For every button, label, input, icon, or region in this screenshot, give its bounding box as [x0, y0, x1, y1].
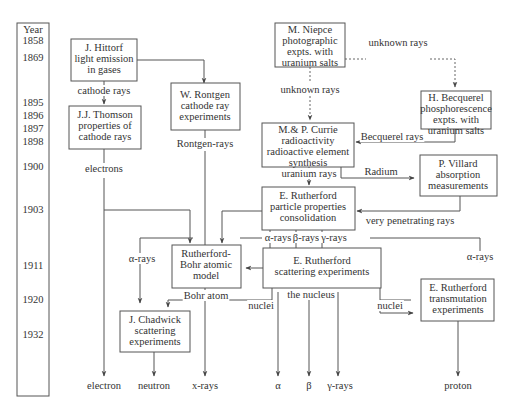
node-label-line: properties of: [78, 120, 132, 131]
outputs: electron neutron x-rays α β γ-rays proto…: [87, 380, 472, 391]
node-label: J. Chadwickscatteringexperiments: [129, 314, 182, 347]
node-label-line: M. Niepce: [288, 24, 333, 35]
timeline-year: 1896: [23, 110, 44, 121]
node-label-line: Bohr atomic: [180, 259, 233, 270]
label-beta-rays-bar: β-rays: [293, 232, 319, 243]
node-label-line: model: [193, 270, 219, 281]
discovery-flow-diagram: Year 18581869189518961897189819001903191…: [0, 0, 511, 409]
node-rutherford-bohr: Rutherford-Bohr atomicmodel: [172, 245, 241, 288]
label-becquerel-rays: Becquerel rays: [361, 131, 424, 142]
node-villard: P. Villardabsorptionmeasurements: [420, 155, 497, 196]
node-label-line: expts. with: [287, 46, 334, 57]
timeline-year: 1897: [23, 123, 44, 134]
node-label-line: J. Chadwick: [129, 314, 182, 325]
node-label: W. Rontgencathode rayexperiments: [179, 89, 230, 122]
output-x-rays: x-rays: [192, 380, 218, 391]
node-becquerel: H. Becquerelphosphorescenceexpts. withur…: [420, 91, 492, 136]
label-alpha-rays-bar: α-rays: [265, 232, 292, 243]
node-label-line: W. Rontgen: [180, 89, 231, 100]
label-rontgen-rays: Rontgen-rays: [177, 138, 234, 149]
label-the-nucleus: the nucleus: [287, 289, 335, 300]
node-label-line: P. Villard: [439, 158, 479, 169]
timeline-year: 1895: [23, 97, 44, 108]
timeline-year: 1903: [23, 204, 44, 215]
node-rutherford-transmutation: E. Rutherfordtransmutationexperiments: [421, 279, 494, 321]
node-label-line: scattering experiments: [275, 266, 370, 277]
node-label: J.J. Thomsonproperties ofcathode rays: [77, 109, 133, 142]
label-nuclei-right: nuclei: [377, 300, 403, 311]
output-beta: β: [306, 380, 311, 391]
node-label-line: light emission: [74, 53, 134, 64]
node-label-line: phosphorescence: [420, 103, 492, 114]
node-label-line: Rutherford-: [181, 248, 231, 259]
node-label-line: E. Rutherford: [279, 190, 337, 201]
node-label-line: expts. with: [433, 114, 480, 125]
node-curie: M.& P. Currieradioactivityradioactive el…: [262, 123, 354, 168]
node-label-line: measurements: [428, 180, 488, 191]
output-neutron: neutron: [138, 380, 171, 391]
timeline-year: 1869: [23, 52, 44, 63]
label-electrons: electrons: [85, 163, 123, 174]
output-proton: proton: [444, 380, 472, 391]
timeline-year: 1898: [23, 136, 44, 147]
node-label-line: M.& P. Currie: [278, 124, 338, 135]
node-label-line: experiments: [179, 111, 230, 122]
timeline: Year 18581869189518961897189819001903191…: [17, 23, 49, 396]
label-nuclei-left: nuclei: [248, 300, 274, 311]
node-label-line: particle properties: [270, 201, 346, 212]
node-label-line: absorption: [436, 169, 481, 180]
node-chadwick: J. Chadwickscatteringexperiments: [120, 311, 190, 352]
node-niepce: M. Niepcephotographicexpts. withuranium …: [275, 23, 345, 68]
node-label-line: cathode ray: [181, 100, 230, 111]
timeline-year: 1858: [23, 35, 44, 46]
label-gamma-rays-bar: γ-rays: [320, 232, 347, 243]
output-gamma-rays: γ-rays: [326, 380, 353, 391]
node-label-line: synthesis: [289, 157, 328, 168]
node-label-line: E. Rutherford: [293, 255, 351, 266]
node-label-line: photographic: [282, 35, 338, 46]
label-unknown-rays-horizontal: unknown rays: [368, 37, 427, 48]
node-label: E. Rutherfordtransmutationexperiments: [429, 282, 487, 315]
node-label-line: E. Rutherford: [429, 282, 487, 293]
node-label-line: uranium salts: [428, 125, 484, 136]
node-label-line: experiments: [432, 304, 483, 315]
node-label-line: J. Hittorf: [85, 42, 123, 53]
label-alpha-rays-right: α-rays: [467, 251, 494, 262]
output-electron: electron: [87, 380, 122, 391]
node-thomson: J.J. Thomsonproperties ofcathode rays: [69, 106, 141, 149]
label-unknown-rays-vertical: unknown rays: [280, 84, 339, 95]
node-label-line: in gases: [87, 64, 121, 75]
node-label-line: consolidation: [280, 212, 337, 223]
label-very-penetrating-rays: very penetrating rays: [366, 215, 455, 226]
node-hittorf: J. Hittorflight emissionin gases: [71, 39, 137, 81]
timeline-year: 1920: [23, 294, 44, 305]
node-rontgen: W. Rontgencathode rayexperiments: [171, 83, 240, 130]
output-alpha: α: [275, 380, 281, 391]
node-label-line: experiments: [129, 336, 180, 347]
label-radium: Radium: [364, 166, 397, 177]
node-rutherford-scattering: E. Rutherfordscattering experiments: [263, 248, 381, 288]
node-label-line: transmutation: [429, 293, 487, 304]
node-label-line: radioactivity: [281, 135, 335, 146]
node-label: E. Rutherfordparticle propertiesconsolid…: [270, 190, 346, 223]
label-alpha-rays-left: α-rays: [129, 253, 156, 264]
node-label-line: J.J. Thomson: [77, 109, 133, 120]
timeline-year: 1932: [23, 329, 44, 340]
label-bohr-atom: Bohr atom: [184, 290, 229, 301]
label-cathode-rays: cathode rays: [78, 85, 131, 96]
node-label-line: H. Becquerel: [428, 92, 483, 103]
node-label-line: uranium salts: [282, 57, 338, 68]
node-label: M. Niepcephotographicexpts. withuranium …: [282, 24, 338, 68]
node-label-line: cathode rays: [79, 131, 132, 142]
timeline-header: Year: [23, 24, 43, 35]
node-rutherford-particle: E. Rutherfordparticle propertiesconsolid…: [262, 187, 355, 230]
timeline-year: 1911: [23, 260, 44, 271]
timeline-year: 1900: [23, 161, 44, 172]
node-label-line: radioactive element: [267, 146, 350, 157]
label-uranium-rays: uranium rays: [281, 168, 336, 179]
node-label-line: scattering: [135, 325, 177, 336]
